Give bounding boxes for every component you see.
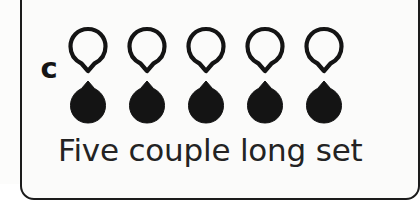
dancer-lady-3 bbox=[176, 27, 235, 73]
dancer-gent-3 bbox=[176, 79, 235, 125]
hollow-pin-icon bbox=[304, 27, 344, 73]
hollow-pin-icon bbox=[68, 27, 108, 73]
filled-pin-icon bbox=[68, 79, 108, 125]
dancer-lady-5 bbox=[295, 27, 354, 73]
formation-diagram bbox=[58, 24, 354, 128]
ladies-row bbox=[58, 26, 354, 74]
hollow-pin-icon bbox=[245, 27, 285, 73]
filled-pin-icon bbox=[304, 79, 344, 125]
filled-pin-icon bbox=[127, 79, 167, 125]
dancer-gent-1 bbox=[58, 79, 117, 125]
filled-pin-icon bbox=[245, 79, 285, 125]
dancer-gent-2 bbox=[117, 79, 176, 125]
dancer-gent-4 bbox=[236, 79, 295, 125]
dancer-lady-4 bbox=[236, 27, 295, 73]
dancer-lady-2 bbox=[117, 27, 176, 73]
dancer-lady-1 bbox=[58, 27, 117, 73]
filled-pin-icon bbox=[186, 79, 226, 125]
dancer-gent-5 bbox=[295, 79, 354, 125]
hollow-pin-icon bbox=[127, 27, 167, 73]
figure-caption: Five couple long set bbox=[58, 129, 354, 171]
hollow-pin-icon bbox=[186, 27, 226, 73]
gents-row bbox=[58, 78, 354, 126]
